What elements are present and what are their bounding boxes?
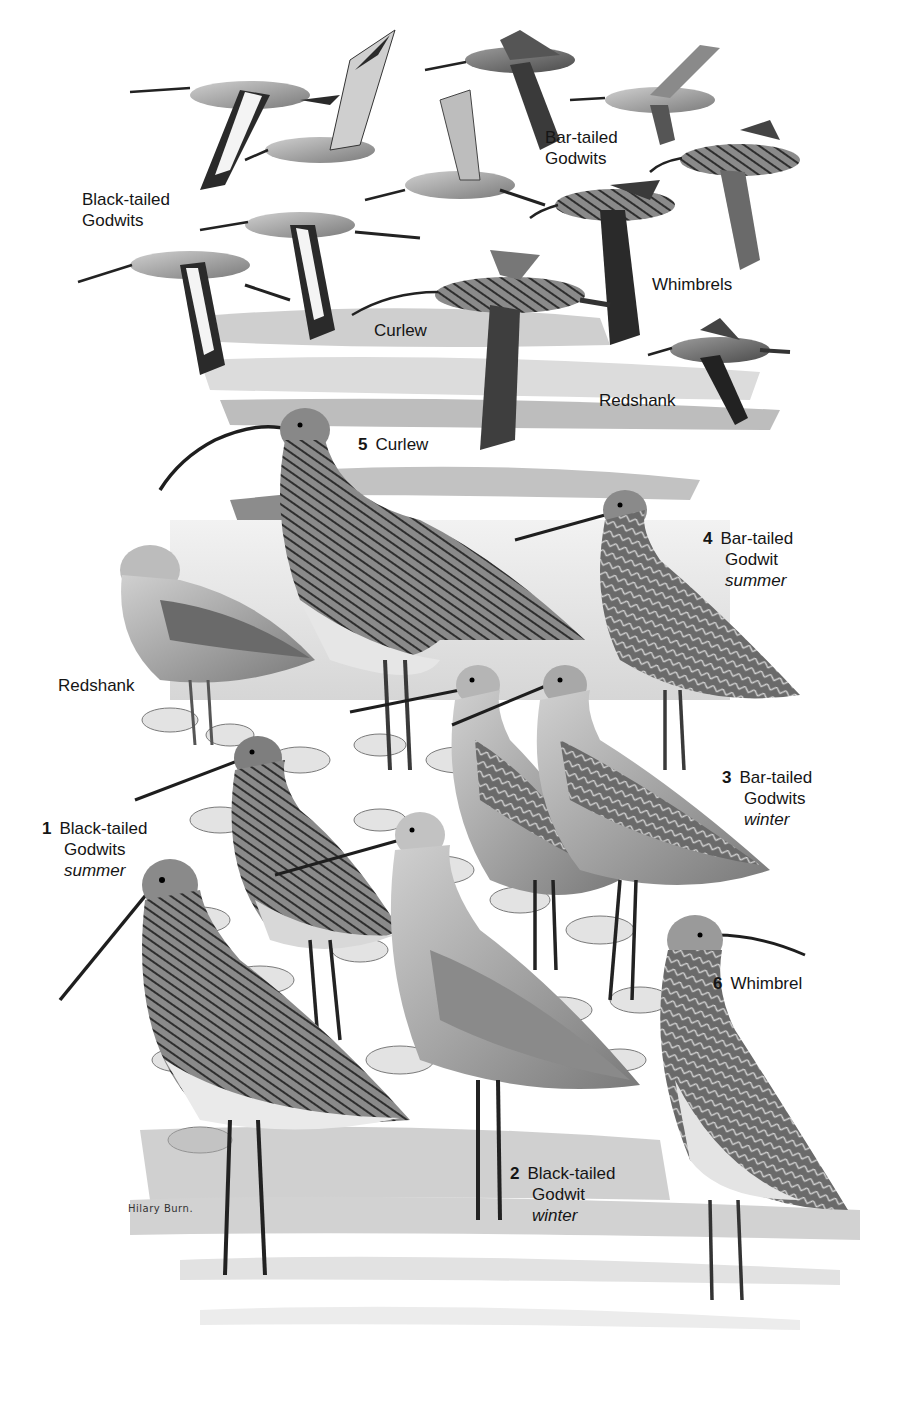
label-number: 1	[42, 819, 51, 838]
label-line: Whimbrels	[652, 274, 732, 295]
label-line: Redshank	[58, 675, 135, 696]
label-number: 2	[510, 1164, 519, 1183]
label-black-tailed-godwit-winter: 2Black-tailed Godwit winter	[510, 1163, 615, 1226]
label-bar-tailed-godwits-winter: 3Bar-tailed Godwits winter	[722, 767, 812, 830]
flying-bar-tailed-godwit	[365, 90, 545, 205]
label-line: Godwits	[42, 839, 147, 860]
label-redshank-flight: Redshank	[599, 390, 676, 411]
flying-whimbrel	[650, 120, 800, 270]
label-bar-tailed-godwits-flight: Bar-tailed Godwits	[545, 127, 618, 169]
label-line: Godwit	[703, 549, 793, 570]
label-number: 5	[358, 435, 367, 454]
label-line: Black-tailed	[527, 1164, 615, 1183]
label-line: Godwits	[545, 148, 618, 169]
label-season: summer	[42, 860, 147, 881]
label-season: winter	[510, 1205, 615, 1226]
label-curlew-flight: Curlew	[374, 320, 427, 341]
label-line: Black-tailed	[59, 819, 147, 838]
label-number: 6	[713, 974, 722, 993]
label-line: Curlew	[374, 320, 427, 341]
label-line: Bar-tailed	[545, 127, 618, 148]
label-whimbrels-flight: Whimbrels	[652, 274, 732, 295]
flying-black-tailed-godwit	[130, 81, 340, 190]
label-line: Godwit	[510, 1184, 615, 1205]
label-bar-tailed-godwit-summer: 4Bar-tailed Godwit summer	[703, 528, 793, 591]
label-line: Godwits	[722, 788, 812, 809]
label-redshank: Redshank	[58, 675, 135, 696]
label-whimbrel: 6Whimbrel	[713, 973, 802, 994]
label-line: Bar-tailed	[739, 768, 812, 787]
label-line: Whimbrel	[730, 974, 802, 993]
label-number: 4	[703, 529, 712, 548]
label-black-tailed-godwits-flight: Black-tailed Godwits	[82, 189, 170, 231]
label-line: Redshank	[599, 390, 676, 411]
label-number: 3	[722, 768, 731, 787]
label-line: Curlew	[375, 435, 428, 454]
label-line: Bar-tailed	[720, 529, 793, 548]
label-season: summer	[703, 570, 793, 591]
label-curlew: 5Curlew	[358, 434, 428, 455]
label-line: Godwits	[82, 210, 170, 231]
label-black-tailed-godwits-summer: 1Black-tailed Godwits summer	[42, 818, 147, 881]
artist-signature: Hilary Burn.	[128, 1203, 193, 1214]
label-season: winter	[722, 809, 812, 830]
label-line: Black-tailed	[82, 189, 170, 210]
